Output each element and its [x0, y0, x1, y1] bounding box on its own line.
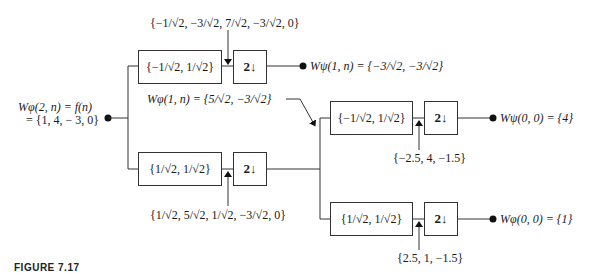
wires: [0, 0, 590, 273]
filter-coeffs: {−1/√2, 1/√2}: [337, 111, 405, 126]
detail0-output-label: Wψ(0, 0) = {4}: [500, 112, 573, 125]
stage2-highpass-conv-result: {−2.5, 4, −1.5}: [393, 152, 466, 165]
stage2-lowpass-conv-result: {2.5, 1, −1.5}: [397, 252, 463, 265]
approx0-node-dot: [490, 216, 497, 223]
stage1-lowpass-filter: {1/√2, 1/√2}: [138, 152, 222, 186]
stage2-lowpass-filter: {1/√2, 1/√2}: [330, 202, 413, 236]
approx0-output-label: Wφ(0, 0) = {1}: [500, 213, 572, 226]
down-arrow-icon: ↓: [441, 211, 448, 227]
detail0-node-dot: [490, 115, 497, 122]
detail1-node-dot: [300, 63, 307, 70]
detail1-output-label: Wψ(1, n) = {−3/√2, −3/√2}: [310, 60, 443, 73]
stage1-highpass-conv-result: {−1/√2, −3/√2, 7/√2, −3/√2, 0}: [150, 17, 300, 30]
stage1-bottom-downsampler: 2↓: [233, 152, 267, 186]
stage1-highpass-filter: {−1/√2, 1/√2}: [138, 50, 222, 84]
figure-caption: FIGURE 7.17: [14, 262, 80, 273]
filter-coeffs: {1/√2, 1/√2}: [149, 162, 210, 177]
filter-coeffs: {−1/√2, 1/√2}: [146, 60, 214, 75]
down-arrow-icon: ↓: [250, 161, 257, 177]
filter-coeffs: {1/√2, 1/√2}: [341, 212, 402, 227]
down-arrow-icon: ↓: [441, 110, 448, 126]
figure-label: FIGURE 7.17: [14, 262, 80, 273]
stage1-top-downsampler: 2↓: [233, 50, 267, 84]
input-label-line2: = {1, 4, − 3, 0}: [26, 114, 99, 127]
stage1-lowpass-conv-result: {1/√2, 5/√2, 1/√2, −3/√2, 0}: [150, 209, 286, 222]
stage2-bottom-downsampler: 2↓: [424, 202, 458, 236]
approx1-output-label: Wφ(1, n) = {5/√2, −3/√2}: [147, 93, 271, 106]
stage2-top-downsampler: 2↓: [424, 101, 458, 135]
stage2-highpass-filter: {−1/√2, 1/√2}: [330, 101, 413, 135]
down-arrow-icon: ↓: [250, 59, 257, 75]
